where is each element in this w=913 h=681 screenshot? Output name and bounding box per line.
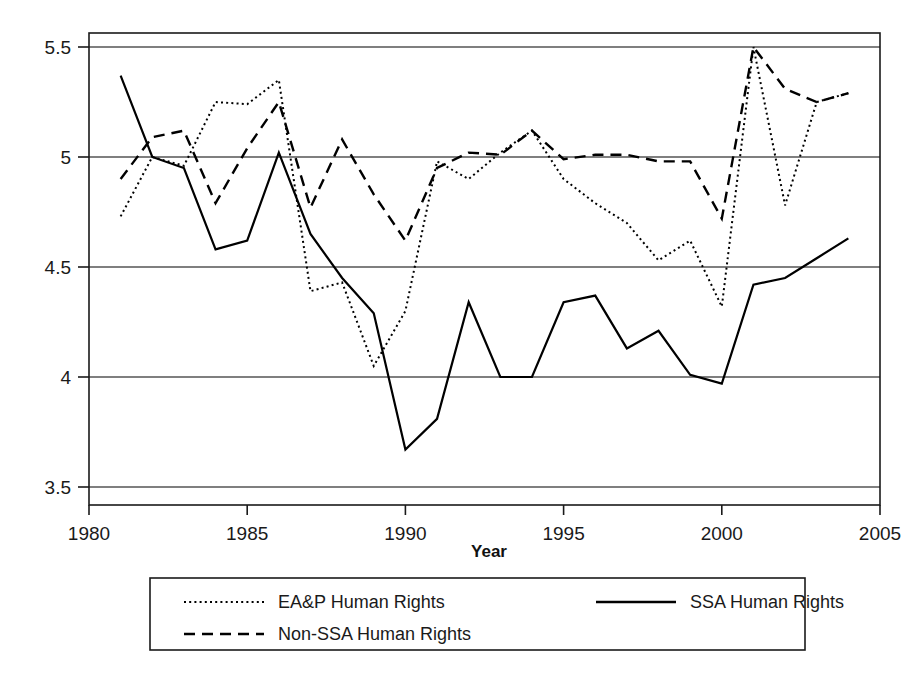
- gridlines-group: [89, 47, 880, 487]
- x-tick-label: 2000: [701, 523, 743, 544]
- x-tick-label: 1985: [226, 523, 268, 544]
- plot-area-border: [89, 33, 880, 505]
- x-axis-title: Year: [471, 542, 507, 561]
- y-tick-label: 4.5: [45, 257, 71, 278]
- x-tick-label: 2005: [859, 523, 901, 544]
- series-line-solid: [121, 76, 849, 450]
- y-tick-label: 5: [60, 147, 71, 168]
- x-tick-label: 1980: [68, 523, 110, 544]
- line-chart: 198019851990199520002005 3.544.555.5 Yea…: [0, 0, 913, 681]
- x-tick-label: 1995: [542, 523, 584, 544]
- series-line-dashed: [121, 47, 849, 241]
- y-tick-label: 5.5: [45, 37, 71, 58]
- series-line-dotted: [121, 47, 849, 366]
- legend-border: [150, 578, 805, 650]
- y-axis-tick-labels: 3.544.555.5: [45, 37, 72, 498]
- data-series-group: [121, 47, 849, 450]
- x-axis-tick-labels: 198019851990199520002005: [68, 523, 901, 544]
- chart-legend: EA&P Human RightsSSA Human RightsNon-SSA…: [150, 578, 844, 650]
- y-axis-ticks: [78, 47, 89, 487]
- figure-container: 198019851990199520002005 3.544.555.5 Yea…: [0, 0, 913, 681]
- x-axis-ticks: [89, 505, 880, 515]
- legend-label: SSA Human Rights: [690, 592, 844, 612]
- legend-label: Non-SSA Human Rights: [278, 624, 471, 644]
- plot-frame: [89, 33, 880, 505]
- legend-label: EA&P Human Rights: [278, 592, 445, 612]
- y-tick-label: 4: [60, 367, 71, 388]
- x-tick-label: 1990: [384, 523, 426, 544]
- y-tick-label: 3.5: [45, 477, 71, 498]
